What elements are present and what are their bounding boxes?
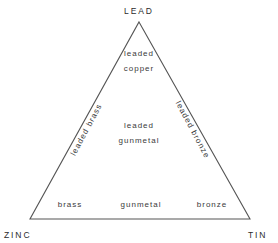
region-label-brass: brass — [58, 201, 83, 209]
region-label-leaded-gunmetal-line2: gunmetal — [119, 138, 160, 146]
vertex-label-lead: LEAD — [124, 7, 154, 16]
region-label-bronze: bronze — [197, 201, 227, 209]
region-label-leaded-copper-line2: copper — [124, 66, 154, 74]
region-label-leaded-gunmetal: leaded gunmetal — [119, 122, 160, 146]
vertex-label-zinc: ZINC — [4, 231, 31, 240]
region-label-leaded-copper-line1: leaded — [124, 49, 154, 58]
region-label-leaded-copper: leaded copper — [124, 50, 154, 74]
ternary-diagram: LEAD ZINC TIN leaded copper leaded gunme… — [0, 0, 278, 243]
region-label-gunmetal: gunmetal — [121, 201, 162, 209]
region-label-leaded-gunmetal-line1: leaded — [124, 121, 154, 130]
vertex-label-tin: TIN — [248, 231, 267, 240]
